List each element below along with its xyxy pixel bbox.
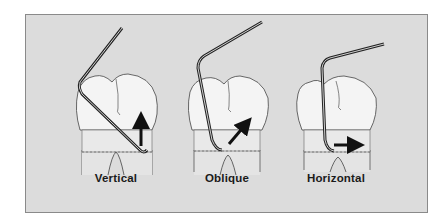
illustration — [0, 0, 446, 221]
label-oblique: Oblique — [187, 172, 267, 184]
tooth-horizontal — [297, 44, 384, 172]
label-horizontal: Horizontal — [296, 172, 376, 184]
tooth-vertical — [76, 28, 157, 175]
cervical-band — [304, 130, 370, 152]
label-vertical: Vertical — [76, 172, 156, 184]
cervical-band — [194, 130, 260, 151]
tooth-oblique — [188, 22, 268, 175]
